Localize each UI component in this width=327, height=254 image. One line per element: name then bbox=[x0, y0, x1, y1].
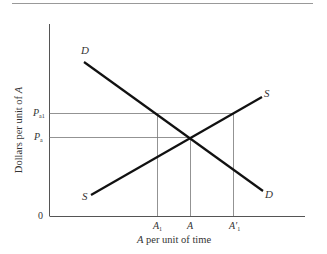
origin-label: 0 bbox=[38, 210, 43, 221]
pa-sub: a bbox=[40, 137, 43, 143]
a1p-sub: 1 bbox=[237, 226, 240, 232]
demand-label-top: D bbox=[80, 44, 89, 56]
supply-label-top: S bbox=[264, 87, 270, 99]
a1-prime-tick-label: A′1 bbox=[228, 220, 240, 232]
pa1-sub: a1 bbox=[39, 113, 45, 119]
y-axis-title: Dollars per unit of A bbox=[13, 86, 24, 173]
a1-sub: 1 bbox=[159, 226, 162, 232]
supply-curve bbox=[91, 97, 262, 195]
a1-tick-label: A1 bbox=[152, 220, 162, 232]
pa1-main: P bbox=[32, 107, 39, 118]
demand-curve bbox=[84, 62, 263, 191]
pa1-tick-label: Pa1 bbox=[32, 107, 45, 119]
pa-main: P bbox=[33, 131, 40, 142]
a-tick-label: A bbox=[186, 220, 194, 231]
x-axis-title-text: per unit of time bbox=[143, 234, 211, 245]
x-axis-title: A per unit of time bbox=[136, 234, 211, 245]
demand-label-bottom: D bbox=[264, 188, 273, 200]
y-axis-title-var: A bbox=[13, 86, 24, 94]
supply-demand-chart: D D S S Pa1 Pa 0 A1 A A′1 A per unit of … bbox=[0, 0, 327, 254]
pa-tick-label: Pa bbox=[33, 131, 43, 143]
supply-label-bottom: S bbox=[82, 190, 88, 202]
y-axis-title-text: Dollars per unit of bbox=[13, 93, 24, 173]
